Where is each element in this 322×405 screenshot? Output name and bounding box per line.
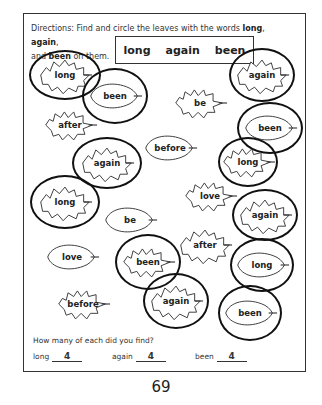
circle-mark xyxy=(230,238,294,292)
leaf-love[interactable]: love xyxy=(44,237,100,277)
leaf-after[interactable]: after xyxy=(42,105,98,145)
circle-mark xyxy=(30,175,100,229)
leaf-word: before xyxy=(142,128,198,168)
target-word: again xyxy=(166,44,200,57)
question-text: How many of each did you find? xyxy=(33,336,154,345)
answer-blank[interactable]: 4 xyxy=(217,352,247,362)
answer-long: long4 xyxy=(33,352,82,362)
answer-blank[interactable]: 4 xyxy=(136,352,166,362)
leaf-word: be xyxy=(172,83,228,123)
target-word: long xyxy=(123,44,150,57)
leaf-love[interactable]: love xyxy=(182,176,238,216)
leaf-word: after xyxy=(42,105,98,145)
leaf-word: love xyxy=(182,176,238,216)
leaf-word: before xyxy=(55,284,111,324)
circle-mark xyxy=(229,48,295,102)
circle-mark xyxy=(232,189,298,241)
leaf-before[interactable]: before xyxy=(142,128,198,168)
answer-been: been4 xyxy=(195,352,247,362)
answer-again: again4 xyxy=(112,352,166,362)
answer-blank[interactable]: 4 xyxy=(52,352,82,362)
leaf-be[interactable]: be xyxy=(172,83,228,123)
circle-mark xyxy=(143,273,209,329)
circle-mark xyxy=(218,285,282,341)
leaf-word: after xyxy=(177,225,233,265)
leaf-after[interactable]: after xyxy=(177,225,233,265)
page-number: 69 xyxy=(0,378,322,396)
leaf-word: love xyxy=(44,237,100,277)
leaf-before[interactable]: before xyxy=(55,284,111,324)
